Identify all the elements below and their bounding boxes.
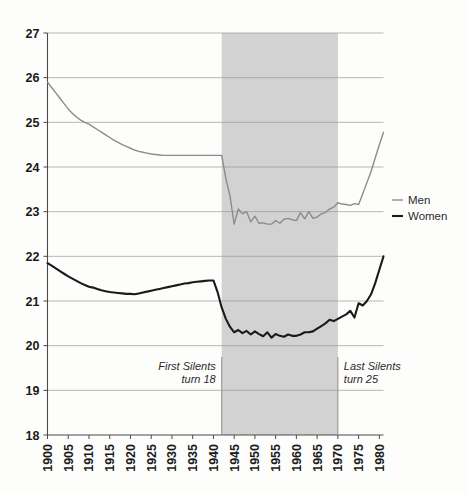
y-axis-tick-label: 22	[26, 250, 40, 264]
annotation-first-silents-line1: First Silents	[158, 360, 216, 372]
legend-label-men: Men	[408, 194, 430, 206]
annotation-first-silents-line2: turn 18	[181, 373, 216, 385]
x-axis-tick-label: 1975	[352, 444, 366, 472]
x-axis-tick-label: 1925	[145, 444, 159, 472]
x-axis-tick-label: 1980	[373, 444, 387, 472]
line-chart: 18192021222324252627 1900190519101915192…	[0, 0, 468, 494]
x-axis-tick-label: 1945	[228, 444, 242, 472]
y-axis-tick-labels: 18192021222324252627	[26, 27, 48, 443]
x-axis-tick-label: 1950	[248, 444, 262, 472]
x-axis-tick-label: 1910	[82, 444, 96, 472]
x-axis-tick-label: 1915	[103, 444, 117, 472]
x-axis-tick-label: 1970	[331, 444, 345, 472]
shaded-band	[222, 33, 338, 435]
y-axis-tick-label: 25	[26, 116, 40, 130]
shaded-region	[222, 33, 338, 435]
chart-container: 18192021222324252627 1900190519101915192…	[0, 0, 468, 494]
x-axis-tick-label: 1900	[41, 444, 55, 472]
y-axis-tick-label: 19	[26, 384, 40, 398]
x-axis-tick-label: 1920	[124, 444, 138, 472]
x-axis-tick-labels: 1900190519101915192019251930193519401945…	[41, 444, 387, 472]
y-axis-tick-label: 23	[26, 205, 40, 219]
y-axis-tick-label: 21	[26, 295, 40, 309]
y-axis-tick-label: 26	[26, 71, 40, 85]
annotation-last-silents-line1: Last Silents	[344, 360, 401, 372]
y-axis-tick-label: 20	[26, 339, 40, 353]
x-axis-ticks	[48, 435, 380, 439]
x-axis-tick-label: 1935	[186, 444, 200, 472]
x-axis-tick-label: 1965	[311, 444, 325, 472]
y-axis-tick-label: 27	[26, 27, 40, 41]
x-axis-tick-label: 1955	[269, 444, 283, 472]
x-axis-tick-label: 1940	[207, 444, 221, 472]
legend: MenWomen	[392, 194, 447, 222]
x-axis-tick-label: 1905	[62, 444, 76, 472]
x-axis-tick-label: 1960	[290, 444, 304, 472]
y-axis-tick-label: 24	[26, 161, 40, 175]
x-axis-tick-label: 1930	[165, 444, 179, 472]
y-axis-tick-label: 18	[26, 429, 40, 443]
annotation-last-silents-line2: turn 25	[344, 373, 379, 385]
legend-label-women: Women	[408, 210, 447, 222]
